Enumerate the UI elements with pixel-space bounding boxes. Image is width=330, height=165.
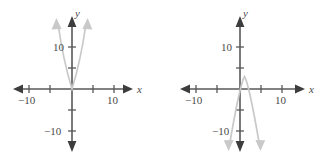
left-x-axis-label: x [136,83,142,95]
right-x-axis [180,85,305,94]
left-graph-panel: x y −10 10 10 −10 [0,0,165,165]
right-parabola-curve [224,77,265,152]
right-y-tick-label-neg10: −10 [212,125,230,137]
right-x-tick-label-neg10: −10 [185,94,203,106]
right-y-axis [236,16,245,152]
right-graph-panel: x y −10 10 10 −10 [165,0,330,165]
left-y-tick-label-neg10: −10 [44,125,62,137]
right-x-tick-label-pos10: 10 [275,94,287,106]
right-y-axis-label: y [242,7,248,19]
left-y-tick-label-pos10: 10 [53,41,65,53]
right-x-axis-label: x [308,83,314,95]
left-x-tick-label-neg10: −10 [18,94,36,106]
left-x-tick-label-pos10: 10 [107,94,119,106]
right-y-tick-label-pos10: 10 [221,41,233,53]
left-y-axis [68,16,77,152]
two-parabola-figure: x y −10 10 10 −10 [0,0,330,165]
left-y-axis-label: y [74,7,80,19]
